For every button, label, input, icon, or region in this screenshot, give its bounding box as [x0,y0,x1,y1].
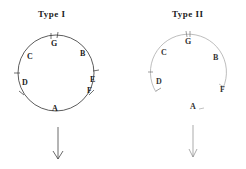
label-a: A [190,102,196,111]
label-c: C [161,48,167,57]
label-d: D [22,78,28,87]
type-1-diagram: G B C D E F A [14,32,99,159]
type-2-diagram: G B C D F A [148,31,226,157]
label-d: D [156,77,162,86]
label-g: G [185,37,191,46]
label-e: E [90,75,95,84]
label-a: A [52,104,58,113]
label-f: F [220,85,225,94]
label-g: G [51,39,57,48]
label-f: F [87,86,92,95]
label-b: B [213,53,219,62]
label-b: B [80,49,86,58]
diagram-canvas: G B C D E F A G B C D F A [0,0,246,169]
label-c: C [27,52,33,61]
